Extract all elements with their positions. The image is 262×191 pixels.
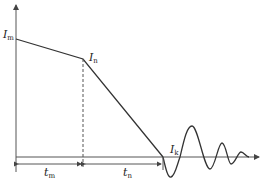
label-ik: Ik [170, 144, 179, 157]
label-in: In [89, 52, 98, 65]
label-tm: tm [44, 167, 55, 180]
diagram-canvas [0, 0, 262, 191]
label-im: Im [3, 29, 14, 42]
label-tn: tn [123, 167, 132, 180]
